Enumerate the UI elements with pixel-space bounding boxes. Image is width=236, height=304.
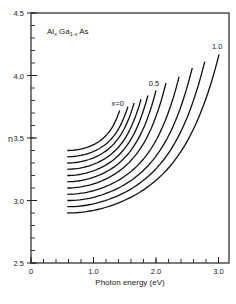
- curve-label: 1.0: [212, 42, 222, 51]
- curve-x-0.3: [67, 99, 141, 169]
- x-tick-label: 2.0: [151, 267, 161, 276]
- y-tick-label: 3.5: [14, 134, 24, 143]
- curve-x-0: [67, 111, 120, 151]
- y-tick-label: 4.5: [14, 9, 24, 18]
- x-axis-label: Photon energy (eV): [95, 278, 165, 287]
- curve-x-0.8: [67, 68, 192, 201]
- y-tick-label: 4.0: [14, 72, 24, 81]
- curve-x-0.4: [67, 96, 148, 176]
- refractive-index-chart: 01.02.03.02.53.03.54.04.5 x=00.51.0 n Ph…: [0, 0, 236, 304]
- plot-frame: [31, 13, 229, 263]
- x-tick-label: 3.0: [213, 267, 223, 276]
- axis-ticks: 01.02.03.02.53.03.54.04.5: [14, 9, 224, 276]
- data-curves: [67, 54, 219, 213]
- y-tick-label: 2.5: [14, 259, 24, 268]
- curve-label: x=0: [112, 99, 124, 108]
- curve-x-0.2: [67, 103, 134, 163]
- material-annotation: Alx Ga1-x As: [47, 27, 89, 37]
- y-tick-label: 3.0: [14, 197, 24, 206]
- x-tick-label: 0: [29, 267, 33, 276]
- curve-x-1.0: [67, 54, 219, 213]
- x-tick-label: 1.0: [88, 267, 98, 276]
- y-axis-label: n: [8, 134, 13, 144]
- curve-label: 0.5: [149, 79, 159, 88]
